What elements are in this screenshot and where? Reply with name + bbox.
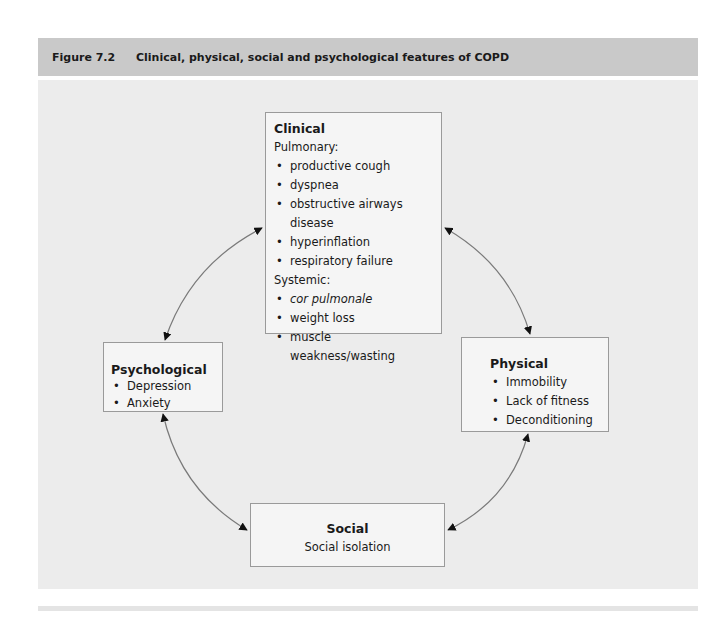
physical-title: Physical [490,354,608,373]
social-box: Social Social isolation [250,503,445,567]
arrow-clinical-psychological [165,228,262,340]
pulmonary-list: productive cough dyspnea obstructive air… [274,157,433,271]
social-title: Social [251,520,444,538]
list-item: respiratory failure [274,252,433,271]
list-item: cor pulmonale [274,290,433,309]
list-item: weight loss [274,309,433,328]
list-item: Anxiety [111,395,215,412]
list-item: Depression [111,378,215,395]
list-item: dyspnea [274,176,433,195]
psychological-title: Psychological [111,361,215,378]
physical-box: Physical Immobility Lack of fitness Deco… [461,337,609,432]
arrow-psychological-social [163,414,247,530]
social-item: Social isolation [251,538,444,556]
list-item: Deconditioning [490,411,608,430]
clinical-box: Clinical Pulmonary: productive cough dys… [265,112,442,334]
clinical-title: Clinical [274,119,433,138]
psychological-box: Psychological Depression Anxiety [103,342,223,412]
list-item: Lack of fitness [490,392,608,411]
psychological-list: Depression Anxiety [111,378,215,412]
list-item: muscle weakness/wasting [274,328,433,366]
list-item: obstructive airways disease [274,195,433,233]
physical-list: Immobility Lack of fitness Deconditionin… [490,373,608,430]
list-item: Immobility [490,373,608,392]
pulmonary-heading: Pulmonary: [274,138,433,157]
list-item: productive cough [274,157,433,176]
systemic-heading: Systemic: [274,271,433,290]
arrow-clinical-physical [445,228,530,334]
arrow-physical-social [448,434,528,530]
systemic-list: cor pulmonale weight loss muscle weaknes… [274,290,433,366]
list-item: hyperinflation [274,233,433,252]
